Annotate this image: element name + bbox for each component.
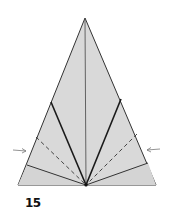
left-push-arrow-icon	[13, 149, 26, 154]
paper-triangle	[18, 18, 156, 185]
right-push-arrow-icon	[147, 148, 160, 153]
origami-diagram	[0, 0, 169, 221]
step-number: 15	[25, 196, 41, 210]
convergence-point	[84, 183, 87, 186]
